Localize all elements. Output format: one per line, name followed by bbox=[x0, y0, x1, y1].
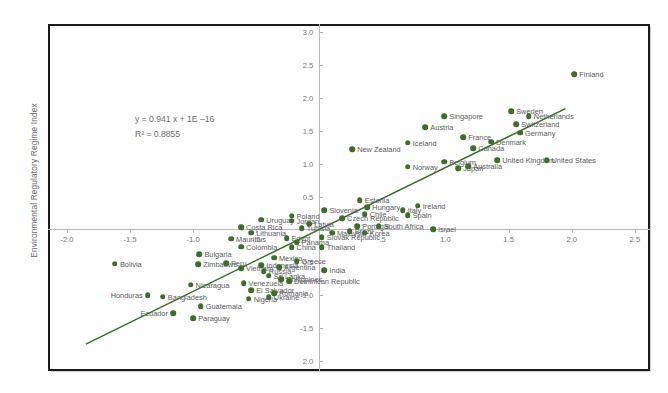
data-point[interactable] bbox=[513, 121, 519, 127]
y-tick-label: 1.0 bbox=[303, 159, 314, 168]
data-point[interactable] bbox=[571, 71, 577, 77]
data-point[interactable] bbox=[145, 292, 151, 298]
data-point[interactable] bbox=[471, 146, 477, 152]
y-tick-label: -1.5 bbox=[300, 324, 313, 333]
regression-annotation: y = 0.941 x + 1E –16 R² = 0.8855 bbox=[135, 112, 214, 142]
data-point[interactable] bbox=[405, 164, 411, 170]
scatter-chart-figure: Environmental Regulatory Regime Index -2… bbox=[0, 0, 668, 393]
data-point-label: Tunisia bbox=[307, 224, 331, 233]
y-tick bbox=[319, 361, 323, 362]
data-point[interactable] bbox=[284, 235, 290, 241]
data-point[interactable] bbox=[112, 261, 118, 267]
data-point[interactable] bbox=[289, 218, 295, 224]
y-tick-label: 1.5 bbox=[303, 126, 314, 135]
data-point-label: Spain bbox=[413, 210, 432, 219]
data-point-label: India bbox=[329, 266, 345, 275]
data-point-label: New Zealand bbox=[357, 145, 401, 154]
data-point[interactable] bbox=[517, 130, 523, 136]
data-point[interactable] bbox=[248, 287, 254, 293]
y-tick-label: 3.0 bbox=[303, 27, 314, 36]
x-tick-label: -1.0 bbox=[187, 235, 200, 244]
data-point[interactable] bbox=[322, 208, 328, 214]
equation-text: y = 0.941 x + 1E –16 bbox=[135, 112, 214, 127]
data-point-label: Ireland bbox=[423, 201, 446, 210]
data-point-label: Iceland bbox=[413, 138, 437, 147]
data-point[interactable] bbox=[289, 244, 295, 250]
data-point-label: China bbox=[297, 243, 316, 252]
data-point-label: Germany bbox=[525, 128, 555, 137]
trendline bbox=[48, 24, 650, 371]
data-point[interactable] bbox=[198, 304, 204, 310]
data-point[interactable] bbox=[405, 140, 411, 146]
r-squared-text: R² = 0.8855 bbox=[135, 127, 214, 142]
data-point[interactable] bbox=[286, 279, 292, 285]
x-tick-label: 1.5 bbox=[503, 235, 514, 244]
data-point-label: Ukraine bbox=[274, 293, 299, 302]
data-point[interactable] bbox=[339, 215, 345, 221]
data-point[interactable] bbox=[508, 108, 514, 114]
y-tick bbox=[319, 65, 323, 66]
data-point[interactable] bbox=[405, 212, 411, 218]
y-axis-title: Environmental Regulatory Regime Index bbox=[30, 51, 39, 311]
data-point-label: United States bbox=[552, 156, 596, 165]
data-point[interactable] bbox=[195, 262, 201, 268]
data-point[interactable] bbox=[357, 198, 363, 204]
data-point[interactable] bbox=[190, 316, 196, 322]
data-point[interactable] bbox=[430, 227, 436, 233]
data-point[interactable] bbox=[526, 113, 532, 119]
data-point[interactable] bbox=[441, 113, 447, 119]
data-point-label: Paraguay bbox=[198, 314, 230, 323]
data-point[interactable] bbox=[423, 125, 429, 131]
x-tick bbox=[193, 229, 194, 233]
data-point-label: Bolivia bbox=[120, 259, 142, 268]
x-tick bbox=[572, 229, 573, 233]
data-point-label: Canada bbox=[478, 144, 504, 153]
plot-area: -2.0-1.5-1.0-.5.51.01.52.02.5 3.02.52.01… bbox=[48, 24, 650, 371]
x-tick-label: 1.0 bbox=[440, 235, 451, 244]
x-tick-label: 2.5 bbox=[630, 235, 641, 244]
data-point[interactable] bbox=[246, 296, 252, 302]
data-point[interactable] bbox=[238, 244, 244, 250]
data-point[interactable] bbox=[544, 158, 550, 164]
data-point-label: Israel bbox=[438, 225, 456, 234]
data-point[interactable] bbox=[441, 159, 447, 165]
data-point-label: Honduras bbox=[111, 291, 143, 300]
data-point-label: Austria bbox=[430, 123, 453, 132]
data-point[interactable] bbox=[238, 225, 244, 231]
data-point-label: Japan bbox=[463, 164, 483, 173]
data-point[interactable] bbox=[197, 252, 203, 258]
data-point[interactable] bbox=[266, 273, 272, 279]
y-tick bbox=[319, 131, 323, 132]
data-point-label: Dominican Republic bbox=[294, 277, 360, 286]
data-point-label: Zimbabwe bbox=[203, 260, 237, 269]
x-tick bbox=[635, 229, 636, 233]
x-tick-label: -1.5 bbox=[123, 235, 136, 244]
data-point[interactable] bbox=[170, 310, 176, 316]
data-point[interactable] bbox=[299, 225, 305, 231]
data-point-label: Ecuador bbox=[140, 309, 168, 318]
x-tick bbox=[509, 229, 510, 233]
y-tick bbox=[319, 164, 323, 165]
data-point-label: Norway bbox=[413, 162, 438, 171]
y-tick-label: 2.0 bbox=[303, 357, 314, 366]
data-point[interactable] bbox=[238, 265, 244, 271]
data-point[interactable] bbox=[319, 244, 325, 250]
data-point-label: Thailand bbox=[327, 243, 355, 252]
data-point[interactable] bbox=[228, 236, 234, 242]
x-tick bbox=[67, 229, 68, 233]
y-tick bbox=[319, 328, 323, 329]
data-point[interactable] bbox=[241, 281, 247, 287]
data-point-label: Nicaragua bbox=[196, 280, 230, 289]
data-point-label: Guatemala bbox=[206, 302, 242, 311]
y-tick-label: 0.5 bbox=[303, 192, 314, 201]
data-point[interactable] bbox=[160, 294, 166, 300]
data-point[interactable] bbox=[322, 267, 328, 273]
data-point[interactable] bbox=[455, 165, 461, 171]
data-point-label: Nigeria bbox=[254, 294, 277, 303]
x-tick bbox=[130, 229, 131, 233]
data-point[interactable] bbox=[349, 146, 355, 152]
data-point[interactable] bbox=[258, 217, 264, 223]
data-point[interactable] bbox=[188, 282, 194, 288]
data-point[interactable] bbox=[460, 134, 466, 140]
y-tick bbox=[319, 98, 323, 99]
